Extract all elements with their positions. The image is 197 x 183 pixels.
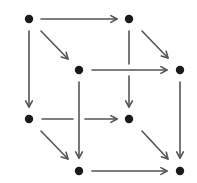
diagram-svg — [0, 0, 197, 183]
node-C — [75, 66, 83, 74]
arrow-E-to-G — [41, 131, 68, 159]
arrow-B-to-D — [142, 31, 168, 58]
arrow-D-to-H — [177, 82, 184, 158]
node-G — [75, 167, 83, 175]
arrow-B-to-F — [126, 31, 133, 107]
node-A — [25, 15, 33, 23]
arrows-layer — [26, 16, 184, 175]
node-E — [25, 115, 33, 123]
node-F — [125, 115, 133, 123]
node-D — [176, 66, 184, 74]
arrow-C-to-D — [92, 67, 167, 74]
arrow-G-to-H — [92, 168, 167, 175]
arrow-A-to-E — [26, 31, 33, 107]
arrow-A-to-C — [41, 31, 68, 59]
arrow-C-to-G — [76, 82, 83, 158]
arrow-A-to-B — [41, 16, 117, 23]
node-H — [176, 167, 184, 175]
arrow-F-to-H — [142, 131, 168, 159]
node-B — [125, 15, 133, 23]
commutative-cube-diagram — [0, 0, 197, 183]
